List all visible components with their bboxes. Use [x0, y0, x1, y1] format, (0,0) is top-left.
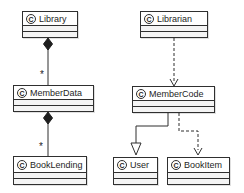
composition-diamond-icon [44, 38, 53, 50]
class-name-label: Library [39, 14, 67, 24]
class-icon: C [17, 160, 27, 170]
dependency-arrowhead-icon [170, 79, 178, 86]
class-box-user[interactable]: C User [113, 157, 158, 185]
generalization-line-membercode-user [136, 113, 168, 144]
class-name-label: BookItem [184, 160, 222, 170]
operations-compartment [141, 31, 207, 37]
class-icon: C [26, 14, 36, 24]
class-box-memberdata[interactable]: C MemberData [13, 85, 94, 112]
composition-diamond-icon [44, 112, 53, 124]
operations-compartment [168, 178, 229, 184]
class-box-membercode[interactable]: C MemberCode [132, 86, 215, 113]
operations-compartment [14, 178, 86, 184]
class-name-label: Librarian [157, 14, 192, 24]
operations-compartment [133, 106, 214, 112]
class-box-librarian[interactable]: C Librarian [140, 11, 208, 38]
class-title: C User [114, 158, 157, 172]
operations-compartment [14, 105, 93, 111]
class-icon: C [17, 88, 27, 98]
operations-compartment [23, 31, 77, 37]
class-name-label: MemberCode [149, 89, 204, 99]
class-icon: C [117, 160, 127, 170]
class-title: C Librarian [141, 12, 207, 25]
class-box-library[interactable]: C Library [22, 11, 78, 38]
class-title: C MemberCode [133, 87, 214, 100]
class-icon: C [144, 14, 154, 24]
operations-compartment [114, 178, 157, 184]
multiplicity-label: * [40, 71, 44, 79]
class-icon: C [136, 89, 146, 99]
class-title: C MemberData [14, 86, 93, 99]
class-title: C BookItem [168, 158, 229, 172]
generalization-arrowhead-icon [131, 143, 141, 155]
multiplicity-label: * [39, 143, 43, 151]
class-name-label: MemberData [30, 88, 82, 98]
dependency-line-membercode-bookitem [179, 113, 198, 150]
class-title: C BookLending [14, 157, 86, 172]
class-icon: C [171, 160, 181, 170]
class-box-booklending[interactable]: C BookLending [13, 156, 87, 185]
class-name-label: User [130, 160, 149, 170]
class-title: C Library [23, 12, 77, 25]
class-name-label: BookLending [30, 160, 83, 170]
class-box-bookitem[interactable]: C BookItem [167, 157, 230, 185]
uml-class-diagram: * * C Library C Librarian C MemberData C… [0, 0, 244, 193]
dependency-arrowhead-icon [194, 148, 202, 155]
